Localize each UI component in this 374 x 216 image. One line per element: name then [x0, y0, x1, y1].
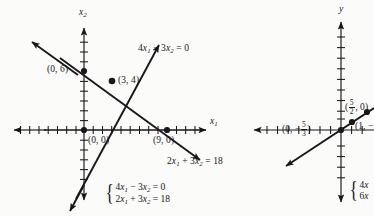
- point-label-0-6: (0, 6): [47, 65, 68, 75]
- point-label-five-halves-zero: (52, 0): [345, 99, 368, 115]
- left-graph-panel: x2 x1 (0, 6) (3, 4) (0, 0) (9, 0) 4x1 − …: [0, 0, 250, 216]
- point-label-zero-neg-five-thirds: (0, −53): [282, 121, 311, 137]
- point-0-6: [81, 68, 87, 74]
- line-2x1-plus-3x2-equals-18: [32, 42, 200, 160]
- x1-axis-label: x1: [210, 117, 218, 128]
- right-system-of-equations: { 4x 6x: [348, 180, 369, 201]
- point-0-0: [81, 127, 87, 133]
- point-label-one-clipped: (1, −: [355, 122, 374, 132]
- math-figure: x2 x1 (0, 6) (3, 4) (0, 0) (9, 0) 4x1 − …: [0, 0, 374, 216]
- point-label-9-0: (9, 0): [153, 136, 174, 146]
- system-row-1: 4x1 − 3x2 = 0: [116, 182, 171, 193]
- system-brace: {: [105, 184, 113, 202]
- system-brace: {: [349, 181, 357, 199]
- point-zero-neg-five-thirds: [338, 127, 344, 133]
- point-3-4: [109, 78, 116, 85]
- left-system-of-equations: { 4x1 − 3x2 = 0 2x1 + 3x2 = 18: [104, 182, 170, 205]
- point-9-0: [164, 127, 170, 133]
- y-axis-label: y: [339, 5, 343, 15]
- system-row-2: 2x1 + 3x2 = 18: [116, 194, 171, 205]
- equation-label-line-2: 2x1 + 3x2 = 18: [167, 157, 223, 168]
- equation-label-line-1: 4x1 − 3x2 = 0: [138, 44, 189, 55]
- x2-axis-label: x2: [79, 8, 87, 19]
- system-row-1: 4x: [360, 180, 369, 190]
- right-graph-panel: y (52, 0) (0, −53) (1, − { 4x 6x: [250, 0, 374, 216]
- system-row-2: 6x: [360, 191, 369, 201]
- point-label-0-0: (0, 0): [88, 136, 109, 146]
- point-label-3-4: (3, 4): [118, 76, 139, 86]
